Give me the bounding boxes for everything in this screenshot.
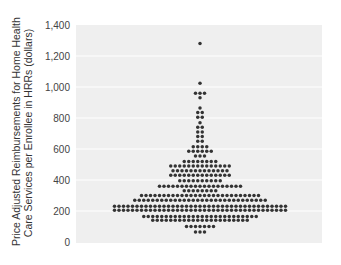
data-point [201,135,205,139]
data-point [196,219,200,223]
data-point [232,198,236,202]
data-point [189,169,193,173]
data-point [192,215,196,219]
data-point [144,208,148,212]
data-point [239,184,243,188]
data-point [201,198,205,202]
data-point [214,219,218,223]
data-point [225,169,229,173]
data-point [192,198,196,202]
data-point [210,150,214,154]
data-point [187,164,191,168]
data-point [183,179,187,183]
data-point [219,219,223,223]
data-point [174,219,178,223]
data-point [225,184,229,188]
data-point [241,219,245,223]
data-point [192,219,196,223]
data-point [266,208,270,212]
data-point [270,208,274,212]
data-point [230,208,234,212]
data-point [201,215,205,219]
data-point [169,215,173,219]
data-point [257,194,261,198]
data-point [192,150,196,154]
data-point [140,205,144,209]
data-point [210,215,214,219]
data-point [156,215,160,219]
data-point [176,169,180,173]
data-point [178,219,182,223]
data-point [205,150,209,154]
data-point [158,194,162,198]
data-point [162,208,166,212]
data-point [203,154,207,158]
data-point [140,208,144,212]
data-point [126,208,130,212]
data-point [198,225,202,229]
data-point [221,184,225,188]
data-point [180,194,184,198]
data-point [232,215,236,219]
data-point [248,208,252,212]
data-point [284,205,288,209]
data-point [230,194,234,198]
data-point [259,198,263,202]
data-point [205,179,209,183]
data-point [183,164,187,168]
data-point [113,205,117,209]
data-point [198,208,202,212]
data-point [234,194,238,198]
data-point [160,215,164,219]
data-point [149,205,153,209]
data-point [196,179,200,183]
data-point [178,164,182,168]
data-point [122,205,126,209]
data-point [239,194,243,198]
data-point [250,198,254,202]
data-point [180,208,184,212]
data-point [142,215,146,219]
data-point [275,205,279,209]
data-point [192,179,196,183]
data-point [194,184,198,188]
data-point [189,225,193,229]
y-tick-label: 1,400 [45,20,70,31]
data-point [201,115,205,119]
data-point [239,205,243,209]
data-point [205,174,209,178]
data-point [261,205,265,209]
data-point [201,111,205,115]
data-point [216,205,220,209]
data-point [171,194,175,198]
data-point [196,126,200,130]
data-point [192,160,196,164]
data-point [165,198,169,202]
data-point [223,219,227,223]
data-point [219,179,223,183]
data-point [187,215,191,219]
data-point [160,198,164,202]
data-point [216,208,220,212]
data-point [203,208,207,212]
data-point [252,208,256,212]
data-point [212,194,216,198]
data-point [196,135,200,139]
data-point [266,205,270,209]
data-point [207,184,211,188]
data-point [205,145,209,149]
data-point [212,208,216,212]
data-point [187,189,191,193]
y-axis-label-line-2: Care Services per Enrollee in HRRs (doll… [22,20,34,246]
data-point [228,164,232,168]
plot-area [0,0,341,265]
data-point [237,198,241,202]
data-point [257,205,261,209]
data-point [207,169,211,173]
data-point [243,208,247,212]
data-point [196,145,200,149]
data-point [228,174,232,178]
data-point [248,205,252,209]
data-point [210,198,214,202]
data-point [174,198,178,202]
